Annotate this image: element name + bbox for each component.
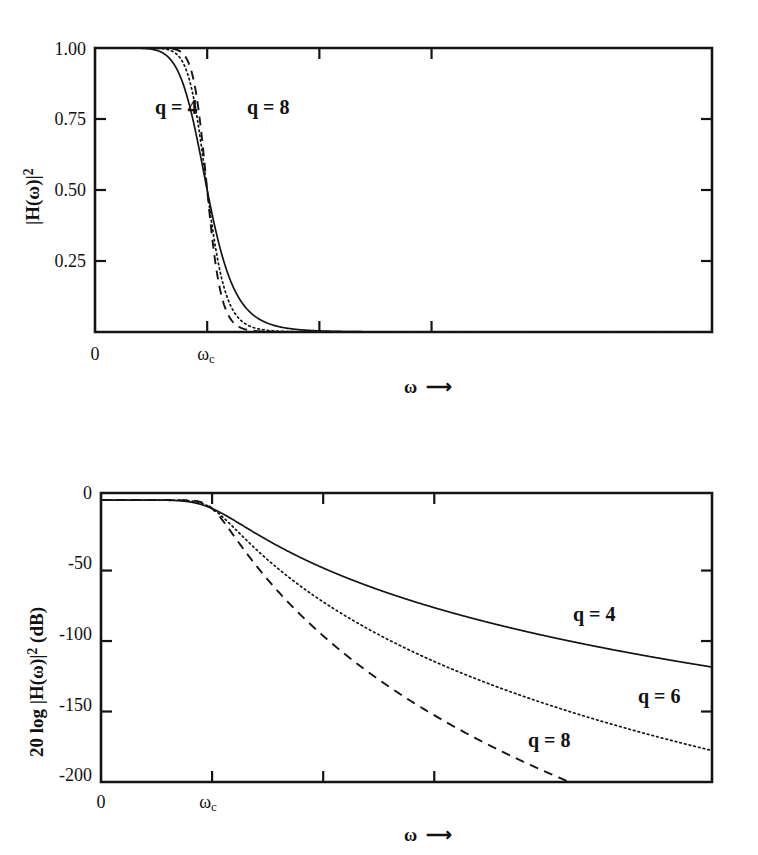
top-x-axis-arrow-icon: ⟶ — [426, 378, 452, 396]
top-cutoff-omega: ω — [197, 344, 209, 364]
bottom-x-tick-origin: 0 — [88, 793, 114, 811]
bottom-curve-q8 — [101, 500, 569, 782]
bottom-curve-label-q4: q = 4 — [573, 604, 616, 624]
top-x-tick-cutoff: ωc — [186, 345, 226, 366]
top-x-tick-origin: 0 — [82, 345, 108, 363]
top-x-axis-title: ω ⟶ — [404, 378, 452, 396]
bottom-x-axis-omega: ω — [404, 826, 417, 844]
top-y-tick-1: 1.00 — [30, 40, 86, 58]
bottom-curve-q6 — [101, 500, 712, 750]
bottom-y-axis-title: 20 log |H(ω)|2 (dB) — [26, 607, 46, 757]
bottom-y-tick-2: -50 — [30, 554, 92, 572]
bottom-y-axis-title-pre: 20 log |H(ω)| — [26, 655, 47, 757]
top-y-axis-title: |H(ω)|2 — [22, 168, 42, 225]
bottom-cutoff-subscript: c — [211, 799, 217, 814]
bottom-y-tick-5: -200 — [30, 766, 92, 784]
top-curve-q8 — [95, 48, 712, 332]
top-y-axis-title-exponent: 2 — [21, 168, 36, 175]
bottom-plot-frame — [101, 493, 712, 782]
top-curve-q4 — [95, 48, 712, 332]
top-y-axis-title-main: |H(ω)| — [22, 175, 43, 225]
top-plot-frame — [95, 48, 712, 332]
bottom-y-axis-title-exponent: 2 — [25, 648, 40, 655]
butterworth-filter-figure: 1.00 0.75 0.50 0.25 0 ωc |H(ω)|2 q = 4 q… — [0, 0, 758, 855]
bottom-plot-canvas — [0, 425, 758, 855]
bottom-y-tick-1: 0 — [30, 484, 92, 502]
bottom-curve-q4 — [101, 500, 712, 667]
top-curve-label-q8: q = 8 — [247, 97, 290, 117]
bottom-x-axis-title: ω ⟶ — [404, 826, 452, 844]
bottom-x-axis-arrow-icon: ⟶ — [426, 826, 452, 844]
bottom-curve-label-q8: q = 8 — [528, 730, 571, 750]
top-curve-label-q4: q = 4 — [155, 97, 198, 117]
bottom-y-axis-title-post: (dB) — [26, 607, 47, 648]
top-plot-canvas — [0, 0, 758, 430]
bottom-curve-label-q6: q = 6 — [638, 686, 681, 706]
top-curve-q6 — [95, 48, 712, 332]
top-y-tick-2: 0.75 — [30, 110, 86, 128]
bottom-cutoff-omega: ω — [199, 792, 211, 812]
bottom-x-tick-cutoff: ωc — [188, 793, 228, 814]
top-cutoff-subscript: c — [209, 351, 215, 366]
top-y-tick-4: 0.25 — [30, 252, 86, 270]
top-x-axis-omega: ω — [404, 378, 417, 396]
